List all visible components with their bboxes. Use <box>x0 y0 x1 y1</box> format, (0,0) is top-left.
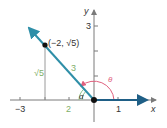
y-tick-label-3: 3 <box>86 21 91 31</box>
y-axis-label: y <box>83 6 89 16</box>
angle-diagram: (−2, √5) √5 3 2 α θ −3 1 3 x y <box>0 0 167 128</box>
vertical-side-label: √5 <box>34 68 44 78</box>
theta-label: θ <box>108 75 113 84</box>
x-tick-label-1: 1 <box>116 104 121 114</box>
hypotenuse-label: 3 <box>71 63 76 73</box>
point-marker <box>42 42 47 47</box>
horizontal-side-label: 2 <box>66 104 71 114</box>
point-label: (−2, √5) <box>48 38 79 48</box>
y-ticks <box>94 26 98 76</box>
x-axis-label: x <box>150 104 156 114</box>
alpha-label: α <box>79 92 84 101</box>
origin-marker <box>91 97 97 103</box>
x-tick-label-neg3: −3 <box>15 104 25 114</box>
